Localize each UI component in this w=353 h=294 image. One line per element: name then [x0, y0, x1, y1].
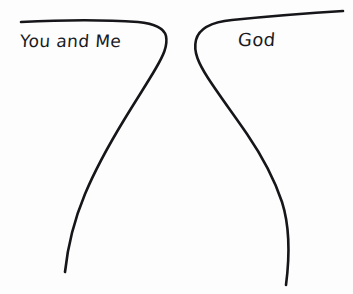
label-god: God — [237, 31, 276, 49]
label-you-and-me: You and Me — [19, 33, 121, 50]
left-hand-drawn-curve — [21, 21, 166, 273]
drawing-canvas: You and Me God — [0, 0, 353, 294]
right-hand-drawn-curve — [195, 11, 343, 285]
